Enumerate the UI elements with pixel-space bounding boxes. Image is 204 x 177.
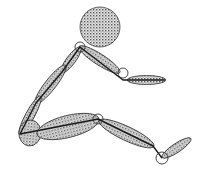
thigh-segment <box>34 108 101 145</box>
foot-segment <box>160 135 194 162</box>
stick-figure-diagram <box>0 0 204 177</box>
skeleton-line <box>20 47 165 158</box>
body-segments <box>16 42 194 161</box>
head-circle <box>80 7 120 47</box>
